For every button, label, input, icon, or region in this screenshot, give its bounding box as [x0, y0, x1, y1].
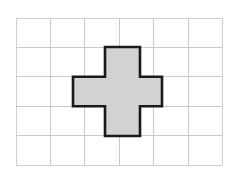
grid-and-cross-canvas — [0, 0, 233, 175]
figure-container: Plus-shaped polygon on a square grid — [0, 0, 233, 175]
